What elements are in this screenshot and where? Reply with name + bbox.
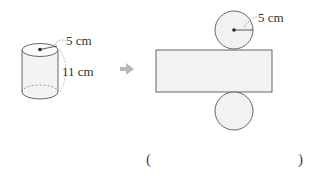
- cylinder-radius-label: 5 cm: [66, 33, 92, 49]
- cylinder-height-label: 11 cm: [62, 64, 94, 80]
- net-radius-label: 5 cm: [258, 10, 284, 26]
- answer-blank[interactable]: [156, 152, 294, 170]
- arrow-icon: [120, 63, 134, 75]
- cylinder: [22, 40, 66, 99]
- answer-open-paren: (: [146, 151, 151, 168]
- cylinder-net: [156, 11, 272, 130]
- answer-close-paren: ): [298, 151, 303, 168]
